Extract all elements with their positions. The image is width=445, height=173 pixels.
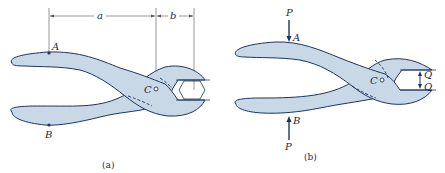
- label-a: A: [51, 41, 59, 52]
- pin-c: [154, 87, 158, 91]
- arrow-down-icon: [287, 36, 292, 42]
- dimension-b-label: b: [170, 10, 176, 21]
- hex-nut: [179, 81, 205, 99]
- dimension-a-label: a: [97, 10, 103, 21]
- point-b: [47, 123, 50, 126]
- label-a-b: A: [292, 32, 300, 43]
- figure-a: a b C A B (a): [11, 8, 210, 170]
- caption-a: (a): [102, 160, 114, 170]
- force-p-bottom-label: P: [284, 141, 292, 152]
- force-p-top-label: P: [285, 7, 293, 18]
- point-a: [47, 51, 50, 54]
- arrow-down-q-icon: [418, 84, 422, 89]
- label-b: B: [44, 129, 52, 140]
- caption-b: (b): [304, 152, 317, 162]
- label-c: C: [144, 84, 152, 95]
- arrow-up-q-icon: [418, 71, 422, 76]
- force-q-top-label: Q: [424, 69, 432, 80]
- arrow-up-icon: [287, 116, 292, 122]
- label-c-b: C: [370, 75, 378, 86]
- pin-c-b: [380, 78, 384, 82]
- pliers-diagram: a b C A B (a) C P: [0, 0, 445, 173]
- figure-b: C P A B P Q Q (b): [235, 7, 436, 162]
- label-b-b: B: [292, 115, 300, 126]
- force-q-bottom-label: Q: [424, 81, 432, 92]
